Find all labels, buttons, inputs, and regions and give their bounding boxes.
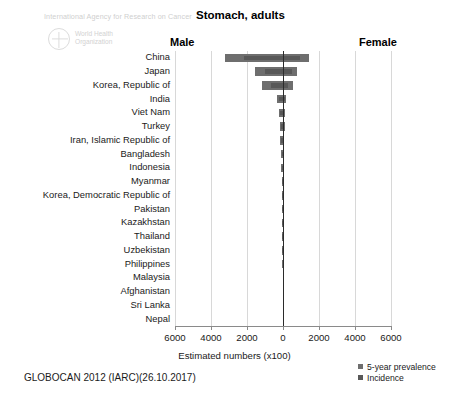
category-label: Turkey <box>142 121 170 132</box>
x-axis-tick-label: 6000 <box>380 332 401 343</box>
x-axis-tick-label: 0 <box>280 332 285 343</box>
gridline <box>391 51 392 326</box>
category-axis-labels: ChinaJapanKorea, Republic ofIndiaViet Na… <box>18 51 170 326</box>
legend-item: Incidence <box>358 372 436 383</box>
x-axis-tick <box>247 326 248 330</box>
iarc-watermark-text: International Agency for Research on Can… <box>44 12 192 21</box>
x-axis-tick-label: 2000 <box>236 332 257 343</box>
who-watermark-line2: Organization <box>75 38 113 46</box>
category-label: Korea, Democratic Republic of <box>43 190 170 201</box>
bar-incidence <box>244 56 299 61</box>
category-label: China <box>146 52 171 63</box>
category-label: Kazakhstan <box>121 217 170 228</box>
legend-label: Incidence <box>367 373 404 383</box>
axis-zero-line <box>283 51 284 326</box>
category-label: India <box>150 94 170 105</box>
legend-swatch-icon <box>358 364 363 369</box>
male-side-header: Male <box>170 36 194 48</box>
source-footer: GLOBOCAN 2012 (IARC)(26.10.2017) <box>24 372 196 383</box>
who-watermark-text: World Health Organization <box>75 30 113 47</box>
legend-item: 5-year prevalence <box>358 361 436 372</box>
x-axis-tick <box>319 326 320 330</box>
x-axis-tick <box>283 326 284 330</box>
female-side-header: Female <box>359 36 397 48</box>
category-label: Afghanistan <box>120 286 170 297</box>
chart-title: Stomach, adults <box>196 9 285 21</box>
category-label: Sri Lanka <box>130 300 170 311</box>
x-axis-tick-label: 4000 <box>344 332 365 343</box>
x-axis-title: Estimated numbers (x100) <box>0 350 469 361</box>
who-emblem-icon <box>48 28 70 50</box>
x-axis-tick <box>355 326 356 330</box>
legend-label: 5-year prevalence <box>367 362 436 372</box>
category-label: Japan <box>144 66 170 77</box>
x-axis-tick <box>211 326 212 330</box>
x-axis-tick-label: 6000 <box>164 332 185 343</box>
category-label: Viet Nam <box>132 107 170 118</box>
chart-legend: 5-year prevalenceIncidence <box>358 361 436 383</box>
x-axis-tick-label: 4000 <box>200 332 221 343</box>
category-label: Nepal <box>146 314 171 325</box>
category-label: Thailand <box>134 231 170 242</box>
category-label: Uzbekistan <box>124 245 170 256</box>
category-label: Indonesia <box>129 162 170 173</box>
legend-swatch-icon <box>358 375 363 380</box>
x-axis-tick <box>391 326 392 330</box>
bar-incidence <box>271 83 288 88</box>
category-label: Iran, Islamic Republic of <box>70 135 170 146</box>
category-label: Korea, Republic of <box>93 80 170 91</box>
who-watermark-line1: World Health <box>75 30 113 38</box>
category-label: Myanmar <box>131 176 170 187</box>
category-label: Bangladesh <box>120 149 170 160</box>
category-label: Malaysia <box>133 272 170 283</box>
x-axis-tick <box>175 326 176 330</box>
category-label: Philippines <box>125 259 170 270</box>
bar-incidence <box>265 69 292 74</box>
x-axis-tick-label: 2000 <box>308 332 329 343</box>
plot-area <box>175 51 391 326</box>
category-label: Pakistan <box>134 204 170 215</box>
